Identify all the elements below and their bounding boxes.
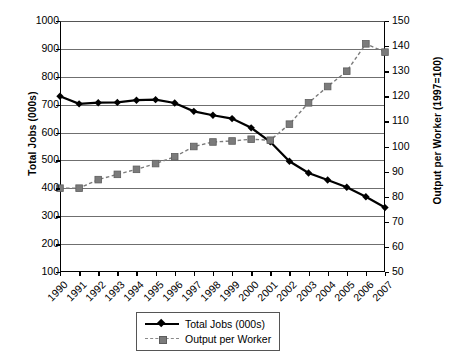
data-point-marker	[133, 166, 140, 173]
data-point-marker	[209, 112, 216, 119]
x-axis-tickmark	[194, 272, 195, 276]
y-axis-right-tickmark	[385, 247, 389, 248]
y-axis-right-tick-label: 60	[392, 241, 426, 252]
y-axis-right-tickmark	[385, 147, 389, 148]
data-point-marker	[95, 176, 102, 183]
data-point-marker	[152, 96, 159, 103]
x-axis-tickmark	[79, 272, 80, 276]
y-axis-right-tick-label: 90	[392, 166, 426, 177]
data-point-marker	[190, 108, 197, 115]
y-axis-right-tick-label: 100	[392, 141, 426, 152]
x-axis-tickmark	[251, 272, 252, 276]
x-axis-tickmark	[289, 272, 290, 276]
y-axis-left-tick-label: 500	[25, 154, 59, 165]
y-axis-right-title: Output per Worker (1997=100)	[432, 26, 443, 236]
data-point-marker	[95, 99, 102, 106]
series-line-1	[60, 96, 385, 207]
data-point-marker	[133, 97, 140, 104]
y-axis-left-tickmark	[56, 49, 60, 50]
data-point-marker	[76, 185, 83, 192]
x-axis-tickmark	[175, 272, 176, 276]
y-axis-left-tick-label: 400	[25, 182, 59, 193]
y-axis-left-tick-label: 300	[25, 210, 59, 221]
legend-label-total-jobs: Total Jobs (000s)	[185, 318, 265, 330]
x-axis-tickmark	[328, 272, 329, 276]
y-axis-left-tick-label: 700	[25, 99, 59, 110]
y-axis-left-tick-label: 800	[25, 71, 59, 82]
y-axis-left-tickmark	[56, 216, 60, 217]
data-point-marker	[343, 68, 350, 75]
legend-item-total-jobs: Total Jobs (000s)	[145, 316, 271, 331]
y-axis-left-tickmark	[56, 21, 60, 22]
series-layer	[60, 21, 385, 272]
data-point-marker	[152, 160, 159, 167]
data-point-marker	[324, 176, 331, 183]
y-axis-right-tick-label: 140	[392, 40, 426, 51]
y-axis-right-tick-label: 110	[392, 115, 426, 126]
data-point-marker	[248, 136, 255, 143]
plot-area	[60, 21, 385, 272]
x-axis-tickmark	[60, 272, 61, 276]
y-axis-left-tick-label: 100	[25, 266, 59, 277]
data-point-marker	[382, 49, 389, 56]
data-point-marker	[229, 138, 236, 145]
y-axis-left-tickmark	[56, 160, 60, 161]
x-axis-tickmark	[213, 272, 214, 276]
y-axis-left-tick-label: 200	[25, 238, 59, 249]
y-axis-left-tickmark	[56, 244, 60, 245]
y-axis-right-tickmark	[385, 71, 389, 72]
y-axis-right-tickmark	[385, 222, 389, 223]
data-point-marker	[114, 171, 121, 178]
y-axis-left-tickmark	[56, 188, 60, 189]
x-axis-tickmark	[232, 272, 233, 276]
data-point-marker	[210, 139, 217, 146]
x-axis-tickmark	[366, 272, 367, 276]
y-axis-right-tickmark	[385, 96, 389, 97]
legend-square-marker-icon	[159, 336, 167, 344]
data-point-marker	[171, 99, 178, 106]
data-point-marker	[267, 137, 274, 144]
y-axis-right-tickmark	[385, 172, 389, 173]
legend-key-output-per-worker	[145, 333, 179, 344]
data-point-marker	[324, 83, 331, 90]
legend-diamond-marker-icon	[157, 319, 166, 328]
x-axis-tickmark	[156, 272, 157, 276]
legend-key-total-jobs	[145, 318, 179, 329]
y-axis-right-tick-label: 120	[392, 90, 426, 101]
legend-item-output-per-worker: Output per Worker	[145, 331, 271, 346]
chart-legend: Total Jobs (000s) Output per Worker	[136, 312, 280, 351]
y-axis-right-tickmark	[385, 121, 389, 122]
data-point-marker	[75, 100, 82, 107]
y-axis-left-tick-label: 900	[25, 43, 59, 54]
y-axis-left-tickmark	[56, 133, 60, 134]
y-axis-right-tick-label: 50	[392, 266, 426, 277]
y-axis-right-tickmark	[385, 197, 389, 198]
chart-container: Total Jobs (000s) Output per Worker (199…	[0, 0, 449, 359]
x-axis-tickmark	[270, 272, 271, 276]
x-axis-tickmark	[117, 272, 118, 276]
data-point-marker	[191, 143, 198, 150]
data-point-marker	[228, 115, 235, 122]
y-axis-left-tick-label: 600	[25, 127, 59, 138]
data-point-marker	[171, 153, 178, 160]
y-axis-left-tickmark	[56, 77, 60, 78]
y-axis-right-tick-label: 130	[392, 65, 426, 76]
y-axis-right-tick-label: 150	[392, 15, 426, 26]
data-point-marker	[286, 121, 293, 128]
y-axis-left-tick-label: 1000	[25, 15, 59, 26]
x-axis-tickmark	[385, 272, 386, 276]
y-axis-right-tick-label: 80	[392, 191, 426, 202]
legend-label-output-per-worker: Output per Worker	[185, 333, 271, 345]
y-axis-left-tickmark	[56, 105, 60, 106]
y-axis-right-tick-label: 70	[392, 216, 426, 227]
x-axis-tickmark	[309, 272, 310, 276]
x-axis-tickmark	[136, 272, 137, 276]
x-axis-tickmark	[347, 272, 348, 276]
x-axis-tickmark	[98, 272, 99, 276]
data-point-marker	[305, 100, 312, 107]
data-point-marker	[363, 41, 370, 48]
y-axis-right-tickmark	[385, 21, 389, 22]
data-point-marker	[114, 99, 121, 106]
y-axis-right-tickmark	[385, 46, 389, 47]
data-point-marker	[343, 184, 350, 191]
